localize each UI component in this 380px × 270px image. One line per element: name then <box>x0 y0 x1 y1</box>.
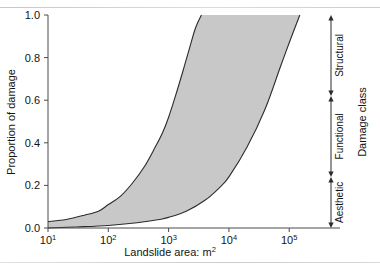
y-axis-tick-labels: 0.00.20.40.60.81.0 <box>25 9 40 234</box>
y-axis-title: Proportion of damage <box>5 69 17 175</box>
x-tick-label: 101 <box>40 233 56 246</box>
arrow-head-icon <box>328 223 333 229</box>
scan-artifact-top <box>0 7 380 8</box>
y-tick-label: 0.4 <box>25 137 40 149</box>
x-tick-label: 103 <box>160 233 176 246</box>
arrow-head-icon <box>328 177 333 183</box>
y-tick-label: 0.0 <box>25 222 40 234</box>
arrow-head-icon <box>328 15 333 21</box>
y-tick-label: 1.0 <box>25 9 40 21</box>
x-tick-label: 102 <box>100 233 116 246</box>
y-axis-ticks <box>44 15 48 228</box>
damage-class-arrows <box>328 15 333 228</box>
damage-class-labels: StructuralFunctionalAesthetic <box>334 34 345 223</box>
y-tick-label: 0.6 <box>25 94 40 106</box>
scan-artifact-bottom <box>0 262 380 263</box>
x-tick-label: 104 <box>221 233 237 246</box>
damage-proportion-chart: 0.00.20.40.60.81.0 101102103104105 Propo… <box>0 0 380 270</box>
arrow-head-icon <box>328 171 333 177</box>
arrow-head-icon <box>328 90 333 96</box>
x-axis-title: Landslide area: m2 <box>124 245 216 258</box>
damage-class-label: Structural <box>334 34 345 77</box>
x-axis-ticks <box>48 228 289 232</box>
x-axis-title-text: Landslide area: m <box>124 246 211 258</box>
figure-container: 0.00.20.40.60.81.0 101102103104105 Propo… <box>0 0 380 270</box>
damage-class-label: Functional <box>334 113 345 159</box>
x-axis-title-exponent: 2 <box>212 245 216 254</box>
damage-band-area <box>48 15 300 228</box>
x-tick-label: 105 <box>281 233 297 246</box>
y-tick-label: 0.8 <box>25 52 40 64</box>
damage-class-label: Aesthetic <box>334 182 345 223</box>
damage-class-group-label: Damage class <box>356 87 368 157</box>
x-axis-tick-labels: 101102103104105 <box>40 233 298 246</box>
arrow-head-icon <box>328 96 333 102</box>
y-tick-label: 0.2 <box>25 179 40 191</box>
